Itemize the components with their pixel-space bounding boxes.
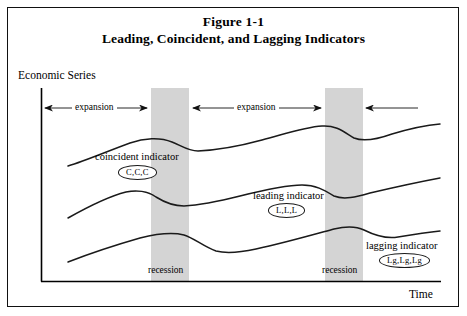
expansion-label-2: expansion [234, 102, 279, 112]
x-axis-label: Time [409, 288, 433, 300]
coincident-indicator-label: coincident indicator [95, 151, 179, 162]
recession-band-1 [151, 88, 189, 281]
recession-label-1: recession [148, 265, 183, 275]
leading-indicator-tag: L,L,L [268, 203, 305, 218]
lagging-indicator-label: lagging indicator [366, 240, 437, 251]
coincident-indicator-tag: C,C,C [118, 165, 157, 180]
chart-plot-area [0, 0, 467, 316]
recession-band-2 [325, 88, 363, 281]
expansion-label-1: expansion [72, 102, 117, 112]
lagging-indicator-tag: Lg,Lg,Lg [379, 253, 430, 268]
leading-indicator-label: leading indicator [253, 190, 324, 201]
figure-container: Figure 1-1 Leading, Coincident, and Lagg… [0, 0, 467, 316]
y-axis-label: Economic Series [18, 69, 96, 81]
recession-label-2: recession [322, 265, 357, 275]
